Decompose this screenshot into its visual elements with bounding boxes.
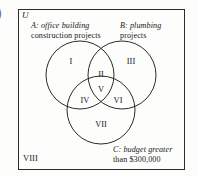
- region-label-8: VIII: [23, 154, 38, 163]
- region-label-4: IV: [81, 97, 90, 105]
- venn-diagram-figure: ) U A: office building construction proj…: [0, 0, 198, 176]
- region-label-5: V: [98, 86, 104, 94]
- region-label-6: VI: [114, 97, 123, 105]
- region-label-1: I: [70, 58, 73, 66]
- region-label-2: II: [98, 71, 104, 79]
- region-label-7: VII: [95, 121, 107, 129]
- region-label-3: III: [127, 58, 135, 66]
